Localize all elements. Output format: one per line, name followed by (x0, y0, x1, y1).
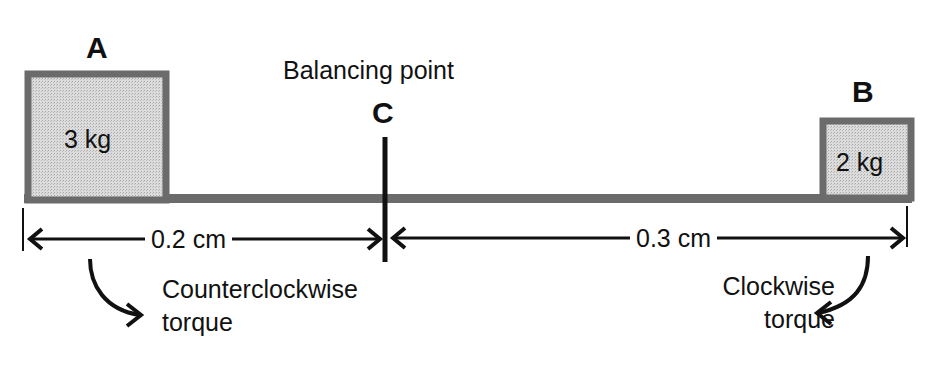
counterclockwise-torque-line2: torque (162, 306, 358, 339)
mass-b-letter: B (852, 77, 874, 107)
counterclockwise-torque-label: Counterclockwise torque (162, 273, 358, 339)
right-distance-label: 0.3 cm (630, 226, 717, 251)
clockwise-torque-line1: Clockwise (675, 270, 835, 303)
clockwise-torque-line2: torque (675, 303, 835, 336)
lever-diagram: A 3 kg B 2 kg Balancing point C 0.2 cm 0… (0, 0, 941, 373)
clockwise-torque-label: Clockwise torque (675, 270, 835, 336)
mass-a-letter: A (86, 33, 108, 63)
mass-b-value: 2 kg (836, 150, 883, 175)
left-distance-label: 0.2 cm (145, 227, 232, 252)
mass-a-value: 3 kg (64, 127, 111, 152)
balancing-point-label: Balancing point (283, 58, 454, 83)
fulcrum-letter: C (372, 98, 394, 128)
counterclockwise-torque-line1: Counterclockwise (162, 273, 358, 306)
